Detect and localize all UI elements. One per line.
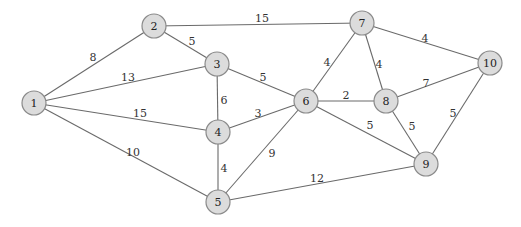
node-10: 10 — [478, 51, 502, 75]
node-label: 3 — [214, 58, 221, 71]
edge-weight-label: 13 — [121, 71, 135, 84]
edge-weight-label: 4 — [376, 58, 383, 71]
edge-weight-label: 9 — [269, 147, 276, 160]
edge-labels-layer: 8131510515654391242544575 — [90, 12, 457, 185]
node-2: 2 — [142, 14, 166, 38]
edge-1-2 — [34, 26, 154, 103]
edge-weight-label: 4 — [422, 32, 429, 45]
node-label: 4 — [215, 126, 222, 139]
edge-weight-label: 3 — [255, 107, 262, 120]
node-4: 4 — [206, 120, 230, 144]
edge-weight-label: 4 — [324, 56, 331, 69]
edge-weight-label: 7 — [423, 77, 430, 90]
node-5: 5 — [206, 190, 230, 214]
edge-9-10 — [426, 63, 490, 164]
edge-weight-label: 15 — [255, 12, 269, 25]
node-6: 6 — [294, 89, 318, 113]
edge-weight-label: 15 — [133, 107, 147, 120]
edge-6-9 — [306, 101, 426, 164]
edge-weight-label: 5 — [260, 71, 267, 84]
node-9: 9 — [414, 152, 438, 176]
edge-weight-label: 5 — [367, 119, 374, 132]
edge-weight-label: 4 — [221, 162, 228, 175]
node-1: 1 — [22, 91, 46, 115]
node-label: 7 — [359, 17, 366, 30]
node-3: 3 — [205, 52, 229, 76]
edge-weight-label: 5 — [450, 107, 457, 120]
edge-6-7 — [306, 23, 362, 101]
edge-weight-label: 12 — [310, 172, 324, 185]
node-7: 7 — [350, 11, 374, 35]
weighted-graph-diagram: 8131510515654391242544575 12345678910 — [0, 0, 521, 227]
node-label: 9 — [423, 158, 430, 171]
edge-weight-label: 6 — [221, 94, 228, 107]
edge-weight-label: 5 — [189, 35, 196, 48]
edge-weight-label: 2 — [343, 89, 350, 102]
node-label: 8 — [383, 95, 390, 108]
node-label: 6 — [303, 95, 310, 108]
node-label: 1 — [31, 97, 38, 110]
edge-weight-label: 5 — [409, 120, 416, 133]
edge-8-10 — [386, 63, 490, 101]
node-label: 2 — [151, 20, 158, 33]
node-label: 10 — [483, 57, 497, 70]
node-8: 8 — [374, 89, 398, 113]
edge-weight-label: 8 — [90, 51, 97, 64]
edge-weight-label: 10 — [126, 146, 140, 159]
node-label: 5 — [215, 196, 222, 209]
